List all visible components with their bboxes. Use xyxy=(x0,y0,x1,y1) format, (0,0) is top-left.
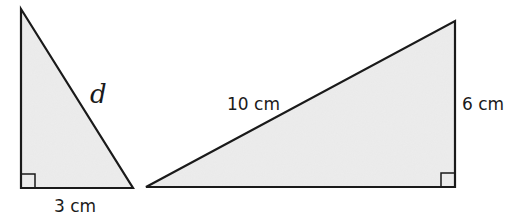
base-label-3cm: 3 cm xyxy=(54,196,96,216)
hypotenuse-label-d: d xyxy=(90,79,107,109)
hypotenuse-label-10cm: 10 cm xyxy=(227,94,280,114)
right-triangle: 10 cm 6 cm xyxy=(146,21,504,187)
left-triangle: d 3 cm xyxy=(21,9,133,216)
height-label-6cm: 6 cm xyxy=(462,94,504,114)
diagram-canvas: d 3 cm 10 cm 6 cm xyxy=(0,0,512,221)
